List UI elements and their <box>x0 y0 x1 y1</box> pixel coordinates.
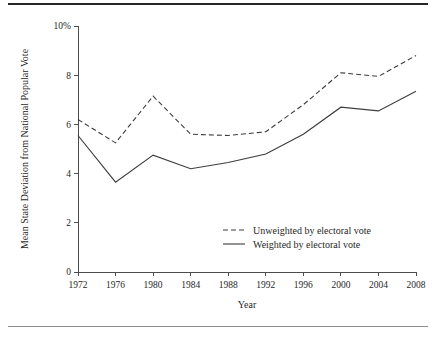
x-tick-label: 2000 <box>331 280 350 290</box>
x-tick-label: 1980 <box>144 280 163 290</box>
y-tick-label: 6 <box>66 120 71 130</box>
y-tick-label: 4 <box>66 169 71 179</box>
series-line-2 <box>78 91 416 182</box>
x-tick-label: 1996 <box>294 280 313 290</box>
y-tick-label: 0 <box>66 267 71 277</box>
legend: Unweighted by electoral voteWeighted by … <box>223 225 372 250</box>
x-tick-label: 2008 <box>407 280 426 290</box>
y-tick-label: 10% <box>54 21 72 31</box>
x-tick-label: 1984 <box>181 280 200 290</box>
series-line-1 <box>78 56 416 143</box>
y-tick-label: 8 <box>66 71 71 81</box>
figure-caption <box>10 331 310 340</box>
legend-label-2: Weighted by electoral vote <box>253 239 361 250</box>
x-tick-label: 2004 <box>369 280 388 290</box>
x-axis-title: Year <box>238 299 257 310</box>
y-axis-title: Mean State Deviation from National Popul… <box>19 48 30 249</box>
bottom-rule <box>8 326 428 327</box>
y-tick-label: 2 <box>66 218 71 228</box>
legend-label-1: Unweighted by electoral vote <box>253 225 372 236</box>
x-tick-label: 1972 <box>69 280 88 290</box>
x-tick-label: 1992 <box>256 280 275 290</box>
chart-area: 0246810%19721976198019841988199219962000… <box>0 14 434 310</box>
figure-root: 0246810%19721976198019841988199219962000… <box>0 0 434 340</box>
line-chart-plot: 0246810%19721976198019841988199219962000… <box>0 14 434 310</box>
x-tick-label: 1976 <box>106 280 125 290</box>
x-tick-label: 1988 <box>219 280 238 290</box>
top-rule <box>8 3 428 5</box>
